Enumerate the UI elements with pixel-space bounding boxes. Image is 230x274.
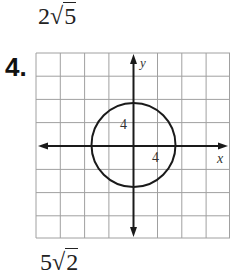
answer-radicand: 2	[65, 248, 78, 274]
answer-coefficient: 5	[40, 249, 52, 274]
next-answer: 5√2	[40, 250, 78, 274]
y-axis-label: y	[138, 55, 146, 70]
x-axis-label: x	[216, 151, 224, 166]
x-tick-label: 4	[152, 150, 159, 165]
radical-sign: √	[52, 250, 65, 274]
y-tick-label: 4	[120, 117, 127, 132]
